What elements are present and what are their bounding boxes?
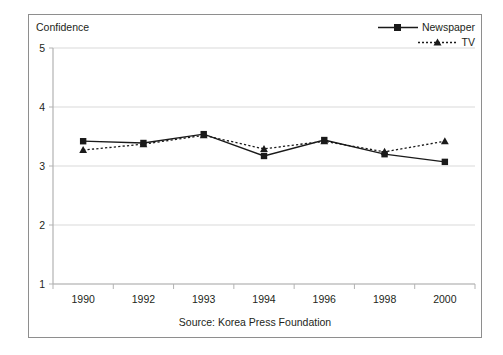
y-tick-label: 3	[27, 160, 45, 172]
plot-area	[29, 15, 483, 339]
legend-swatch-newspaper	[378, 22, 418, 33]
data-point-marker	[441, 137, 449, 144]
series-line-tv	[83, 135, 445, 152]
data-point-marker	[260, 145, 268, 152]
data-point-marker	[80, 138, 86, 144]
data-series-layer	[79, 131, 449, 165]
data-point-marker	[200, 131, 208, 138]
data-point-marker	[320, 137, 328, 144]
data-point-marker	[79, 146, 87, 153]
x-tick-label: 1994	[239, 293, 289, 305]
x-tick-label: 1990	[58, 293, 108, 305]
x-tick-label: 1993	[179, 293, 229, 305]
axis-lines	[49, 48, 475, 284]
y-tick-label: 5	[27, 42, 45, 54]
data-point-marker	[321, 137, 327, 143]
y-tick-label: 2	[27, 219, 45, 231]
x-tick-label: 1998	[360, 293, 410, 305]
x-axis-ticks	[53, 284, 475, 289]
legend-label-newspaper: Newspaper	[422, 20, 475, 35]
data-point-marker	[140, 140, 148, 147]
legend-swatch-tv	[418, 37, 458, 48]
source-note: Source: Korea Press Foundation	[29, 316, 481, 328]
x-tick-label: 1996	[299, 293, 349, 305]
series-line-newspaper	[83, 134, 445, 162]
data-point-marker	[442, 159, 448, 165]
chart-frame: Confidence Newspaper TV	[28, 14, 482, 338]
data-point-marker	[381, 148, 389, 155]
y-axis-title: Confidence	[36, 21, 89, 33]
data-point-marker	[381, 151, 387, 157]
gridlines	[53, 48, 475, 284]
x-tick-label: 1992	[118, 293, 168, 305]
data-point-marker	[140, 140, 146, 146]
y-tick-label: 4	[27, 101, 45, 113]
chart-legend: Newspaper TV	[378, 20, 475, 50]
legend-item-tv[interactable]: TV	[378, 35, 475, 50]
data-point-marker	[201, 131, 207, 137]
legend-label-tv: TV	[462, 35, 475, 50]
x-tick-label: 2000	[420, 293, 470, 305]
data-point-marker	[261, 153, 267, 159]
legend-item-newspaper[interactable]: Newspaper	[378, 20, 475, 35]
y-tick-label: 1	[27, 278, 45, 290]
